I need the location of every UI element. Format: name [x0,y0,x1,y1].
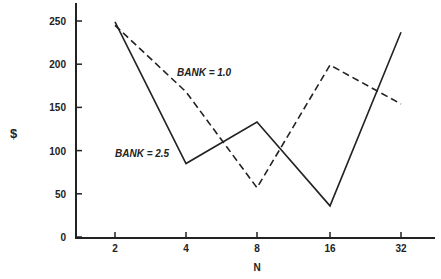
y-tick-label: 100 [49,146,66,157]
annotation-bank-2-5: BANK = 2.5 [115,148,170,159]
x-tick-label: 16 [324,243,336,254]
series-bank-2-5-line [115,22,401,206]
x-tick-label: 2 [112,243,118,254]
y-axis: 050100150200250 [49,3,82,243]
x-axis: 2481632 [75,232,435,254]
x-tick-label: 32 [395,243,407,254]
y-tick-label: 250 [49,16,66,27]
y-tick-label: 50 [55,189,67,200]
line-chart: 050100150200250 2481632 $ N BANK = 1.0 B… [0,0,441,279]
annotation-bank-1-0: BANK = 1.0 [177,67,232,78]
y-tick-label: 0 [60,232,66,243]
x-tick-label: 4 [183,243,189,254]
x-axis-label: N [253,262,260,273]
y-tick-label: 200 [49,59,66,70]
y-tick-label: 150 [49,102,66,113]
y-axis-label: $ [10,126,18,141]
x-tick-label: 8 [254,243,260,254]
